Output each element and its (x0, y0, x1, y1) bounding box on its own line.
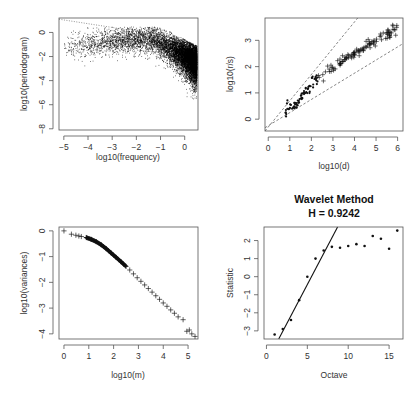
data-point-cross (79, 234, 84, 239)
data-point (286, 102, 288, 104)
data-point (293, 102, 295, 104)
data-point (296, 104, 298, 106)
data-point (285, 115, 287, 117)
data-point (292, 107, 294, 109)
data-point-cross (378, 32, 383, 37)
data-point-cross (176, 314, 181, 319)
x-tick-label: 3 (331, 143, 336, 153)
data-point-cross (135, 275, 140, 280)
y-tick-label: −3 (242, 326, 252, 336)
data-point (316, 80, 318, 82)
y-tick-label: 0 (242, 274, 252, 279)
data-point (305, 91, 307, 93)
x-tick-label: −5 (59, 142, 69, 152)
data-point (290, 319, 293, 322)
data-point (388, 247, 391, 250)
rs-points (284, 23, 399, 118)
x-tick-label: 2 (111, 351, 116, 361)
x-tick-label: −2 (132, 142, 142, 152)
data-point (316, 83, 318, 85)
x-tick-label: −1 (156, 142, 166, 152)
data-point-cross (187, 327, 192, 332)
fit-line (279, 227, 338, 339)
rs-ylabel: log10(r/s) (225, 56, 235, 92)
y-tick-label: 0 (243, 117, 253, 122)
data-point (312, 86, 314, 88)
variances-ylabel: log10(variances) (19, 251, 29, 314)
y-tick-label: −2 (242, 308, 252, 318)
data-point (303, 90, 305, 92)
data-point (306, 275, 309, 278)
wavelet-fit-line (279, 227, 338, 339)
data-point-cross (321, 79, 326, 84)
data-point (302, 92, 304, 94)
plot-frame (264, 227, 403, 339)
data-point-cross (317, 75, 322, 80)
y-tick-label: −4 (37, 329, 47, 339)
data-point (311, 77, 313, 79)
wavelet-frame (264, 227, 403, 339)
periodogram-ylabel: log10(periodogram) (19, 37, 29, 111)
data-point (307, 86, 309, 88)
data-point-cross (366, 37, 371, 42)
y-tick-label: 2 (242, 238, 252, 243)
periodogram-y-axis: 0−2−4−6−8 (37, 30, 53, 134)
data-point-cross (153, 293, 158, 298)
data-point-cross (157, 297, 162, 302)
data-point-cross (379, 34, 384, 39)
data-point-cross (61, 228, 66, 233)
data-point (299, 98, 301, 100)
data-point (371, 235, 374, 238)
data-point (286, 99, 288, 101)
variances-points (61, 228, 197, 339)
data-point-cross (164, 304, 169, 309)
data-point-cross (340, 53, 345, 58)
data-point (289, 107, 291, 109)
x-tick-label: 1 (86, 351, 91, 361)
x-tick-label: 1 (287, 143, 292, 153)
variances-y-axis: 0−1−2−3−4 (37, 228, 53, 338)
data-point-cross (142, 282, 147, 287)
plot-frame (59, 227, 198, 339)
periodogram-x-axis: −5−4−3−2−10 (59, 136, 187, 152)
y-tick-label: 2 (243, 64, 253, 69)
x-tick-label: −4 (83, 142, 93, 152)
y-tick-label: −2 (37, 51, 47, 61)
x-tick-label: 0 (62, 351, 67, 361)
wavelet-xlabel: Octave (321, 370, 348, 380)
data-point-cross (381, 31, 386, 36)
data-point (355, 243, 358, 246)
x-tick-label: 15 (384, 351, 394, 361)
data-point-cross (352, 55, 357, 60)
variances-x-axis: 012345 (62, 345, 191, 361)
data-point-cross (320, 72, 325, 77)
panel-wavelet: Wavelet Method H = 0.9242 051015 −3−2−10… (225, 193, 403, 380)
data-point-cross (73, 233, 78, 238)
wavelet-points (273, 229, 398, 335)
data-point-cross (364, 39, 369, 44)
rs-y-axis: 0123 (243, 38, 259, 122)
panel-rs: 0123456 0123 log10(d) log10(r/s) (225, 0, 403, 171)
x-tick-label: 5 (374, 143, 379, 153)
y-tick-label: −1 (37, 251, 47, 261)
y-tick-label: −6 (37, 100, 47, 110)
x-tick-label: 4 (161, 351, 166, 361)
variances-frame (59, 227, 198, 339)
wavelet-x-axis: 051015 (264, 345, 394, 361)
data-point (310, 85, 312, 87)
data-point-cross (131, 271, 136, 276)
data-point-cross (192, 334, 197, 339)
y-tick-label: −8 (37, 124, 47, 134)
data-point-cross (189, 331, 194, 336)
panel-variances: 012345 0−1−2−3−4 log10(m) log10(variance… (19, 227, 198, 380)
data-point-cross (390, 23, 395, 28)
periodogram-reference-line (59, 19, 129, 30)
data-point (297, 102, 299, 104)
x-tick-label: 2 (309, 143, 314, 153)
data-point-cross (181, 317, 186, 322)
data-point-cross (127, 267, 132, 272)
data-point (396, 229, 399, 232)
data-point-cross (161, 300, 166, 305)
data-point-cross (184, 329, 189, 334)
data-point (305, 87, 307, 89)
